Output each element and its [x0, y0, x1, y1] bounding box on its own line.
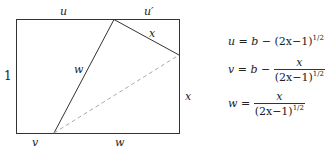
label-w-bottom: w [115, 136, 125, 149]
equation-u: u = b − (2x−1)1/2 [228, 34, 324, 48]
equation-w: w = x(2x−1)1/2 [228, 90, 305, 118]
label-x-right: x [185, 90, 192, 103]
label-v: v [32, 136, 39, 149]
label-x-fold: x [149, 27, 156, 40]
label-one: 1 [4, 69, 12, 83]
fold-line-x [114, 20, 179, 56]
fold-line-w [54, 20, 114, 134]
dashed-diagonal [54, 55, 179, 133]
equation-v: v = b − x(2x−1)1/2 [228, 56, 325, 84]
label-u-prime: u′ [144, 5, 154, 18]
label-w-fold: w [74, 63, 84, 76]
label-u: u [60, 5, 67, 18]
